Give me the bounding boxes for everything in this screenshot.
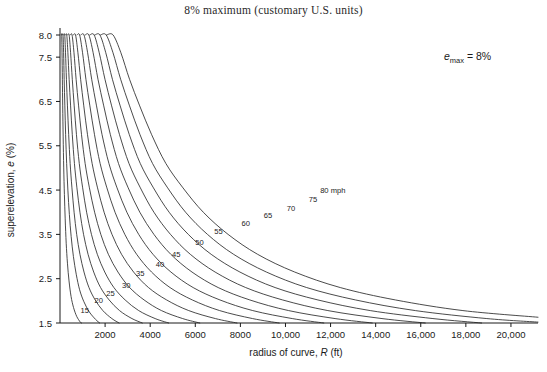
speed-curve-label-75: 75	[309, 195, 317, 204]
x-axis-title-symbol: R	[320, 347, 327, 358]
speed-curve-label-80: 80 mph	[320, 186, 345, 195]
y-axis-title-units: (%)	[5, 143, 16, 161]
emax-equals: =	[464, 50, 473, 62]
x-tick-label: 6000	[185, 329, 206, 340]
x-tick-label: 10,000	[271, 329, 300, 340]
y-axis-title-prefix: superelevation,	[5, 167, 16, 238]
speed-curve-70	[95, 34, 482, 323]
x-tick-label: 14,000	[361, 329, 390, 340]
emax-annotation: emax = 8%	[444, 50, 491, 65]
emax-subscript: max	[450, 56, 464, 65]
x-axis-title: radius of curve, R (ft)	[249, 347, 342, 358]
y-tick-label: 5.5	[39, 140, 52, 151]
speed-curve-label-20: 20	[95, 296, 103, 305]
emax-value: 8%	[473, 50, 491, 62]
speed-curve-label-65: 65	[264, 211, 272, 220]
speed-curve-label-35: 35	[136, 269, 144, 278]
y-tick-label: 7.5	[39, 52, 52, 63]
speed-curve-80	[107, 34, 538, 318]
curve-labels-group: 1520253035404550556065707580 mph	[81, 186, 346, 315]
y-tick-label: 2.5	[39, 273, 52, 284]
y-tick-label: 6.5	[39, 96, 52, 107]
speed-curve-label-60: 60	[242, 219, 250, 228]
x-axis-title-prefix: radius of curve,	[249, 347, 320, 358]
x-tick-label: 18,000	[451, 329, 480, 340]
speed-curve-75	[101, 34, 538, 322]
x-tick-label: 16,000	[406, 329, 435, 340]
speed-curve-55	[81, 34, 324, 323]
speed-curve-45	[74, 34, 237, 323]
y-tick-label: 3.5	[39, 229, 52, 240]
speed-curve-label-25: 25	[106, 289, 114, 298]
superelevation-design-chart: 8% maximum (customary U.S. units) 152025…	[0, 0, 547, 372]
speed-curve-label-15: 15	[81, 306, 89, 315]
x-tick-label: 4000	[140, 329, 161, 340]
speed-curve-50	[77, 34, 279, 323]
speed-curve-label-30: 30	[122, 281, 130, 290]
speed-curve-label-70: 70	[287, 204, 295, 213]
x-tick-label: 2000	[95, 329, 116, 340]
y-axis-title: superelevation, e (%)	[5, 143, 16, 238]
x-tick-label: 8000	[230, 329, 251, 340]
speed-curve-35	[68, 34, 169, 323]
y-tick-label: 8.0	[39, 30, 52, 41]
speed-curve-label-50: 50	[195, 238, 203, 247]
speed-curve-label-40: 40	[156, 260, 164, 269]
speed-curve-label-45: 45	[172, 250, 180, 259]
curves-group	[61, 34, 538, 323]
chart-canvas: 1520253035404550556065707580 mph 1.52.53…	[0, 0, 547, 372]
x-axis-title-units: (ft)	[328, 347, 343, 358]
speed-curve-label-55: 55	[214, 227, 222, 236]
y-tick-label: 4.5	[39, 185, 52, 196]
y-tick-label: 1.5	[39, 318, 52, 329]
figure-title: 8% maximum (customary U.S. units)	[0, 4, 547, 16]
x-tick-label: 20,000	[496, 329, 525, 340]
x-tick-label: 12,000	[316, 329, 345, 340]
